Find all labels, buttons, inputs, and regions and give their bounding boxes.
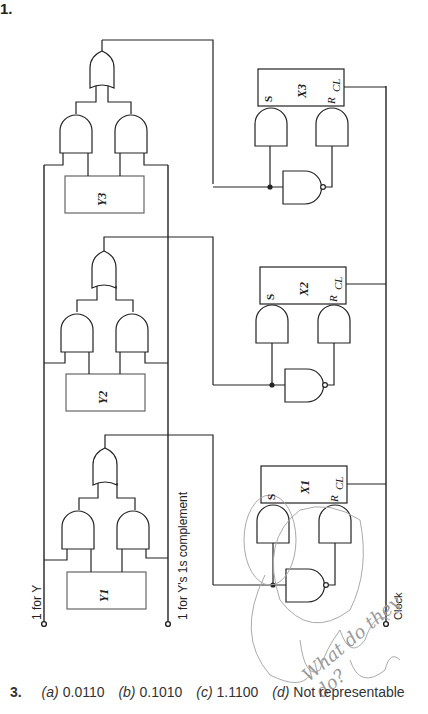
option-c-letter: (c) (196, 684, 212, 700)
option-a-letter: (a) (42, 684, 59, 700)
option-d-value: Not representable (293, 684, 404, 700)
option-a-value: 0.0110 (63, 684, 105, 700)
x1-pin-cl: CL (333, 477, 345, 490)
x2-pin-s: S (264, 294, 276, 300)
x1-pin-s: S (265, 494, 277, 500)
option-c-value: 1.1100 (217, 684, 259, 700)
register-x1-label: X1 (298, 480, 313, 494)
x3-pin-cl: CL (330, 79, 342, 92)
option-b-value: 0.1010 (140, 684, 183, 700)
x3-pin-s: S (262, 96, 274, 102)
input-y-label: 1 for Y (30, 585, 44, 620)
option-b-letter: (b) (118, 684, 135, 700)
stage-1 (44, 435, 386, 609)
stage-3 (44, 40, 386, 213)
register-y3-label: Y3 (95, 193, 110, 206)
register-x2-label: X2 (297, 282, 312, 296)
logic-circuit-diagram (0, 0, 428, 714)
x3-pin-r: R (325, 97, 337, 104)
x2-pin-r: R (327, 295, 339, 302)
input-y-complement-label: 1 for Y's 1s complement (176, 492, 190, 620)
x1-pin-r: R (328, 495, 340, 502)
register-y2-label: Y2 (96, 391, 111, 404)
answer-line: 3. (a)0.0110 (b)0.1010 (c)1.1100 (d)Not … (10, 684, 405, 700)
register-y1-label: Y1 (97, 589, 112, 602)
stage-2 (44, 237, 386, 411)
answer-number: 3. (10, 684, 22, 700)
x2-pin-cl: CL (332, 277, 344, 290)
option-d-letter: (d) (272, 684, 289, 700)
register-x3-label: X3 (295, 84, 310, 98)
